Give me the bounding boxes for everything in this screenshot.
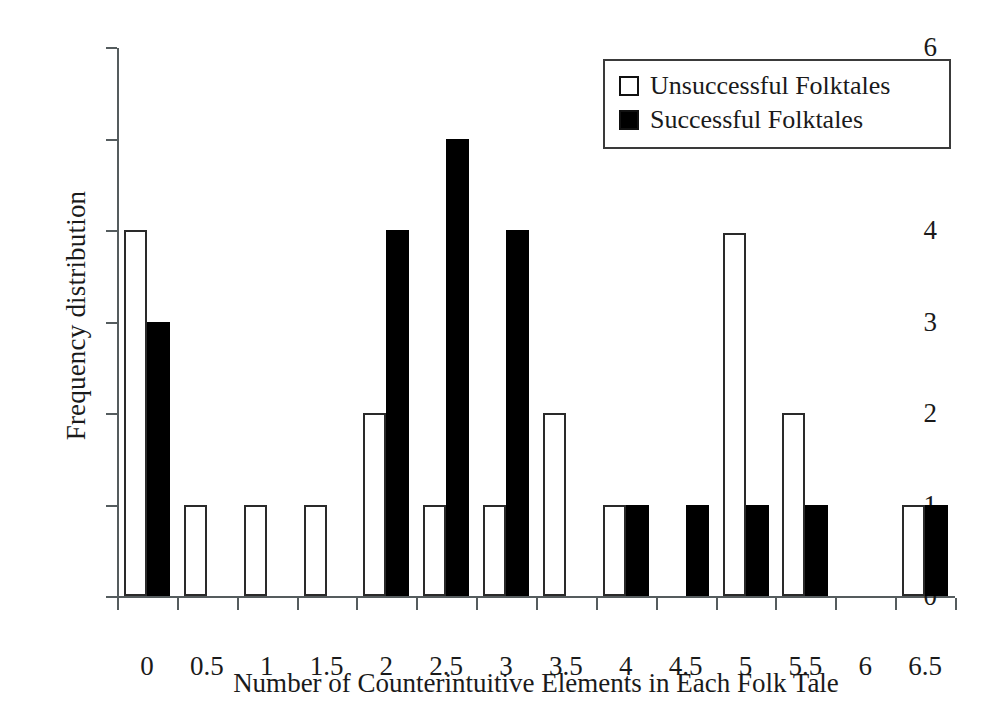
legend-label: Unsuccessful Folktales xyxy=(650,73,890,99)
y-tick xyxy=(106,322,117,324)
bar xyxy=(543,413,566,596)
y-axis-title: Frequency distribution xyxy=(61,36,92,596)
x-tick-label: 6.5 xyxy=(885,653,965,680)
bar xyxy=(902,505,925,597)
x-tick xyxy=(775,598,777,610)
legend: Unsuccessful Folktales Successful Folkta… xyxy=(603,59,951,149)
x-tick xyxy=(177,598,179,610)
bar xyxy=(603,505,626,597)
y-tick-label: 3 xyxy=(877,309,937,336)
bar xyxy=(506,230,529,596)
x-tick xyxy=(416,598,418,610)
x-tick xyxy=(596,598,598,610)
y-tick-label: 4 xyxy=(877,217,937,244)
bar xyxy=(386,230,409,596)
bar xyxy=(184,505,207,597)
x-tick xyxy=(297,598,299,610)
y-axis-line xyxy=(117,48,119,598)
bar xyxy=(124,230,147,596)
x-tick xyxy=(656,598,658,610)
y-tick xyxy=(106,413,117,415)
bar xyxy=(782,413,805,596)
bar xyxy=(304,505,327,597)
x-tick xyxy=(356,598,358,610)
y-tick xyxy=(106,596,117,598)
x-tick xyxy=(835,598,837,610)
bar xyxy=(147,322,170,597)
x-tick xyxy=(716,598,718,610)
bar xyxy=(363,413,386,596)
legend-swatch-open-icon xyxy=(619,76,639,96)
y-tick xyxy=(106,139,117,141)
legend-item-unsuccessful[interactable]: Unsuccessful Folktales xyxy=(619,69,933,103)
bar xyxy=(746,505,769,597)
bar xyxy=(626,505,649,597)
x-tick xyxy=(476,598,478,610)
bar xyxy=(925,505,948,597)
bar xyxy=(244,505,267,597)
bar xyxy=(423,505,446,597)
bar xyxy=(686,505,709,597)
legend-item-successful[interactable]: Successful Folktales xyxy=(619,103,933,137)
legend-swatch-filled-icon xyxy=(619,110,639,130)
bar xyxy=(446,139,469,597)
x-tick xyxy=(536,598,538,610)
x-tick xyxy=(237,598,239,610)
x-tick xyxy=(895,598,897,610)
bar xyxy=(723,233,746,596)
legend-label: Successful Folktales xyxy=(650,107,863,133)
x-tick xyxy=(117,598,119,610)
x-tick xyxy=(955,598,957,610)
y-tick-label: 6 xyxy=(877,34,937,61)
y-tick xyxy=(106,505,117,507)
y-tick xyxy=(106,47,117,49)
y-tick xyxy=(106,230,117,232)
bar xyxy=(483,505,506,597)
y-tick-label: 2 xyxy=(877,400,937,427)
bar xyxy=(805,505,828,597)
figure: Frequency distribution Number of Counter… xyxy=(0,0,997,722)
